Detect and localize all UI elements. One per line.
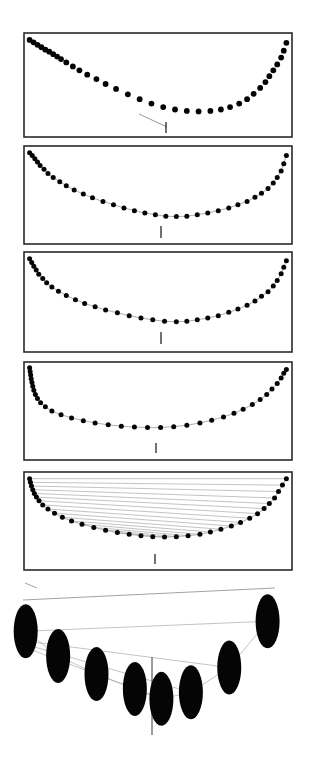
data-point [69,415,74,420]
data-point [275,175,280,180]
data-point [259,294,264,299]
data-point [227,104,233,110]
data-point [56,289,61,294]
data-point [221,414,226,419]
data-point [258,397,263,402]
data-point [184,214,189,219]
data-point [43,404,48,409]
data-point [90,195,95,200]
data-point [160,104,166,110]
data-point [49,284,54,289]
data-point [245,199,250,204]
data-point [103,307,108,312]
data-point [72,187,77,192]
data-point [218,527,223,532]
data-point [163,214,168,219]
data-point [196,109,202,115]
data-point [125,91,131,97]
data-point [64,183,69,188]
data-point [69,519,74,524]
data-point [274,62,280,68]
data-point [58,56,64,62]
data-point [81,192,86,197]
data-point [52,511,57,516]
data-point [197,420,202,425]
data-point [93,420,98,425]
data-point [255,511,260,516]
data-point [284,258,289,263]
data-point [281,265,286,270]
data-point [40,502,45,507]
data-point [57,179,62,184]
data-point [236,101,242,107]
panel-3-converged-deeper [24,252,292,352]
data-point [84,72,90,78]
data-point [197,532,202,537]
data-point [63,60,69,66]
magnified-data-point [46,629,70,683]
data-point [37,498,42,503]
data-point [205,315,210,320]
data-point [279,375,284,380]
data-point [142,210,147,215]
data-point [111,202,116,207]
panel-1-initial-probe [24,33,292,137]
data-point [77,67,83,73]
data-point [93,304,98,309]
data-point [275,381,280,386]
data-point [150,534,155,539]
data-point [145,425,150,430]
data-point [82,301,87,306]
data-point [49,409,54,414]
data-point [271,181,276,186]
data-point [262,506,267,511]
data-point [235,307,240,312]
panel-2-converged-symmetric [24,146,292,244]
data-point [138,315,143,320]
data-point [205,210,210,215]
data-point [137,96,143,102]
data-point [162,319,167,324]
data-point [158,425,163,430]
data-point [174,534,179,539]
data-point [149,101,155,107]
data-point [59,412,64,417]
data-point [186,533,191,538]
data-point [150,317,155,322]
data-point [251,91,257,97]
data-point [281,161,286,166]
data-point [276,489,281,494]
data-point [184,319,189,324]
data-point [245,303,250,308]
data-point [247,516,252,521]
data-point [244,96,250,102]
data-point [38,163,43,168]
data-point [209,418,214,423]
data-point [231,411,236,416]
magnified-data-point [179,665,203,719]
data-point [226,205,231,210]
magnified-data-point [123,662,147,716]
data-point [266,186,271,191]
data-point [45,171,50,176]
data-point [208,108,214,114]
data-point [100,199,105,204]
data-point [275,278,280,283]
magnified-data-point [14,604,38,658]
data-point [195,317,200,322]
data-point [94,76,100,82]
data-point [195,212,200,217]
data-point [115,310,120,315]
data-point [272,496,277,501]
data-point [284,476,289,481]
data-point [241,407,246,412]
data-point [279,271,284,276]
data-point [127,313,132,318]
data-point [60,515,65,520]
figure-canvas [0,0,311,775]
data-point [252,299,257,304]
data-point [40,276,45,281]
data-point [266,73,272,79]
data-point [252,195,257,200]
data-point [106,422,111,427]
